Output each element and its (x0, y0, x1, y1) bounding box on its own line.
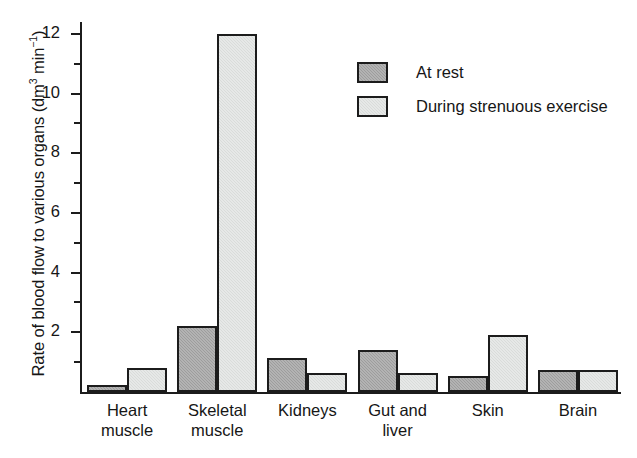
bar-brain-at-rest (538, 370, 578, 392)
y-tick-label-4: 4 (20, 262, 60, 281)
bar-skeletal-muscle-during-strenuous-exercise (217, 34, 257, 392)
x-axis-label-line-1: Brain (559, 401, 598, 419)
bar-gut-and-liver-at-rest (358, 350, 398, 392)
y-tick-major-6: 6 (71, 212, 80, 214)
x-axis-label-line-1: Gut and (368, 401, 427, 419)
bar-gut-and-liver-during-strenuous-exercise (398, 373, 438, 392)
y-tick-label-6: 6 (20, 202, 60, 221)
chart-legend: At rest During strenuous exercise (357, 55, 608, 123)
y-tick-major-12: 12 (71, 33, 80, 35)
legend-swatch-during-strenuous-exercise (357, 96, 388, 117)
y-tick-major-2: 2 (71, 331, 80, 333)
bar-heart-muscle-during-strenuous-exercise (127, 368, 167, 392)
x-axis-label-line-1: Skin (472, 401, 504, 419)
bar-chart-figure: Rate of blood flow to various organs (dm… (0, 0, 637, 458)
bar-heart-muscle-at-rest (87, 385, 127, 392)
legend-label-at-rest: At rest (416, 63, 464, 82)
bar-skeletal-muscle-at-rest (177, 326, 217, 392)
bar-skin-at-rest (448, 376, 488, 392)
legend-label-during-strenuous-exercise: During strenuous exercise (416, 97, 608, 116)
x-axis-label-line-2: liver (338, 420, 458, 440)
x-axis-label-line-1: Kidneys (278, 401, 337, 419)
y-tick-major-4: 4 (71, 272, 80, 274)
bar-brain-during-strenuous-exercise (578, 370, 618, 392)
bar-skin-during-strenuous-exercise (488, 335, 528, 392)
y-tick-label-8: 8 (20, 142, 60, 161)
x-axis-label-line-2: muscle (157, 420, 277, 440)
y-tick-label-12: 12 (20, 23, 60, 42)
bar-kidneys-during-strenuous-exercise (307, 373, 347, 392)
y-tick-label-10: 10 (20, 83, 60, 102)
y-tick-major-10: 10 (71, 93, 80, 95)
y-tick-major-8: 8 (71, 152, 80, 154)
x-axis-category-labels: HeartmuscleSkeletalmuscleKidneysGut andl… (80, 400, 621, 456)
y-tick-label-2: 2 (20, 321, 60, 340)
x-axis-label-line-1: Skeletal (188, 401, 247, 419)
legend-entry-at-rest: At rest (357, 55, 608, 89)
x-axis-label-line-1: Heart (107, 401, 147, 419)
bar-kidneys-at-rest (267, 358, 307, 392)
legend-swatch-at-rest (357, 62, 388, 83)
y-axis-title-mid: min (29, 48, 47, 79)
legend-entry-during-strenuous-exercise: During strenuous exercise (357, 89, 608, 123)
x-axis-label-brain: Brain (518, 400, 637, 420)
